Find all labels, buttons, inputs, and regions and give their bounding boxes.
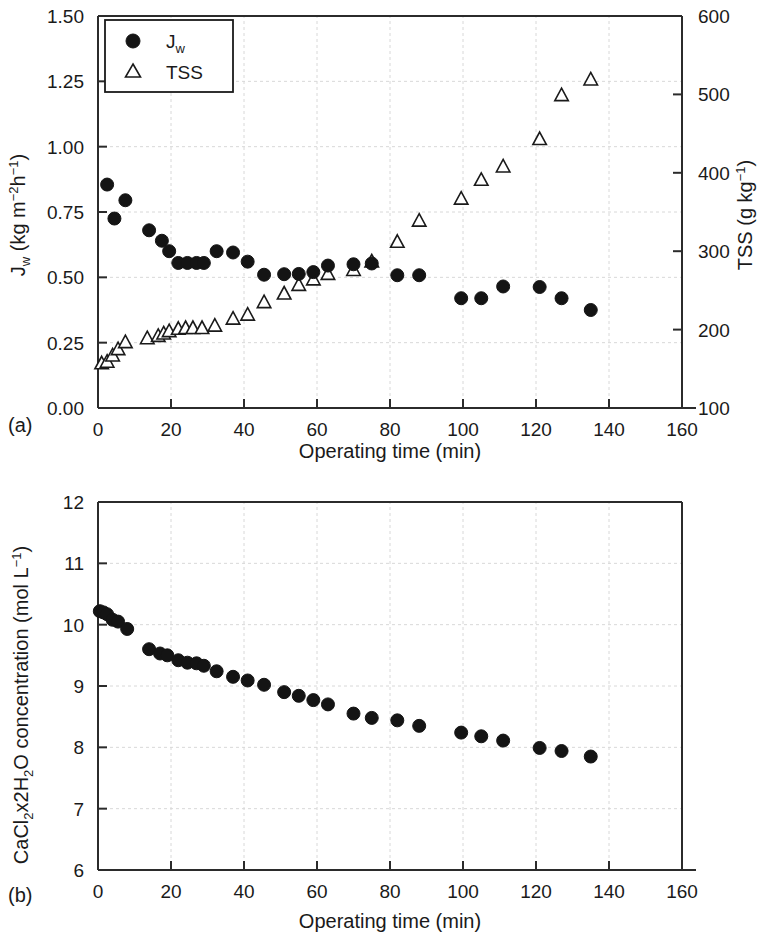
- tick-label-x: 20: [160, 419, 181, 440]
- tick-label-y-left: 1.25: [47, 71, 84, 92]
- panel-a-label: (a): [8, 414, 32, 436]
- panel-b-series-points: [93, 605, 597, 763]
- data-point-concentration: [555, 745, 568, 758]
- legend-label-jw-main: J: [166, 31, 176, 52]
- legend-label-jw-subscript: w: [175, 41, 186, 56]
- data-point-concentration: [227, 670, 240, 683]
- legend-label-tss: TSS: [166, 62, 203, 83]
- tick-label-y-left: 9: [73, 676, 84, 697]
- data-point-concentration: [210, 665, 223, 678]
- panel-a-plot: 0204060801001201401600.000.250.500.751.0…: [0, 0, 771, 470]
- tick-label-y-left: 0.00: [47, 398, 84, 419]
- data-point-jw: [101, 178, 114, 191]
- data-point-concentration: [475, 730, 488, 743]
- panel-a-y2-axis-title: TSS (g kg−1): [733, 160, 756, 270]
- data-point-tss: [241, 308, 255, 321]
- data-point-jw: [108, 212, 121, 225]
- data-point-concentration: [307, 694, 320, 707]
- panel-b-plot: 0204060801001201401606789101112 CaCl2x2H…: [0, 470, 771, 940]
- data-point-tss: [496, 159, 510, 172]
- data-point-tss: [391, 235, 405, 248]
- data-point-concentration: [197, 659, 210, 672]
- tick-label-x: 140: [593, 419, 625, 440]
- figure-container: 0204060801001201401600.000.250.500.751.0…: [0, 0, 771, 940]
- data-point-jw: [197, 256, 210, 269]
- data-point-jw: [227, 246, 240, 259]
- tick-label-x: 160: [666, 881, 698, 902]
- data-point-jw: [497, 280, 510, 293]
- tick-label-x: 140: [593, 881, 625, 902]
- tick-label-x: 40: [233, 881, 254, 902]
- data-point-concentration: [497, 734, 510, 747]
- panel-a-series-jw-points: [101, 178, 598, 316]
- data-point-tss: [208, 319, 222, 332]
- data-point-jw: [391, 269, 404, 282]
- data-point-concentration: [391, 714, 404, 727]
- panel-b-gridlines: [98, 502, 682, 870]
- tick-label-y-right: 400: [698, 163, 730, 184]
- tick-label-y-left: 1.00: [47, 137, 84, 158]
- tick-label-y-right: 600: [698, 6, 730, 27]
- data-point-jw: [258, 268, 271, 281]
- tick-label-x: 160: [666, 419, 698, 440]
- data-point-tss: [584, 72, 598, 85]
- panel-b-label: (b): [8, 884, 32, 906]
- tick-label-y-left: 0.75: [47, 202, 84, 223]
- data-point-concentration: [278, 686, 291, 699]
- data-point-jw: [413, 269, 426, 282]
- panel-b-x-axis-title: Operating time (min): [299, 910, 481, 932]
- panel-a: 0204060801001201401600.000.250.500.751.0…: [0, 0, 771, 470]
- data-point-tss: [257, 295, 271, 308]
- tick-label-y-right: 100: [698, 398, 730, 419]
- tick-label-y-left: 1.50: [47, 6, 84, 27]
- tick-label-y-left: 8: [73, 737, 84, 758]
- tick-label-y-right: 500: [698, 84, 730, 105]
- data-point-tss: [277, 287, 291, 300]
- tick-label-y-left: 11: [64, 553, 84, 574]
- data-point-jw: [210, 245, 223, 258]
- data-point-jw: [533, 281, 546, 294]
- data-point-concentration: [347, 707, 360, 720]
- data-point-jw: [241, 255, 254, 268]
- tick-label-x: 80: [379, 419, 400, 440]
- data-point-concentration: [121, 622, 134, 635]
- data-point-concentration: [455, 726, 468, 739]
- panel-a-series-tss-points: [95, 72, 598, 368]
- tick-label-x: 40: [233, 419, 254, 440]
- tick-label-x: 100: [447, 419, 479, 440]
- data-point-jw: [584, 304, 597, 317]
- data-point-jw: [555, 292, 568, 305]
- tick-label-x: 20: [160, 881, 181, 902]
- svg-text:Jw (kg m−2h−1): Jw (kg m−2h−1): [6, 154, 33, 276]
- tick-label-x: 60: [306, 419, 327, 440]
- tick-label-y-left: 6: [73, 860, 84, 881]
- tick-label-x: 0: [93, 881, 104, 902]
- data-point-concentration: [292, 689, 305, 702]
- tick-label-x: 100: [447, 881, 479, 902]
- tick-label-y-right: 200: [698, 320, 730, 341]
- data-point-jw: [119, 194, 132, 207]
- tick-label-x: 120: [520, 881, 552, 902]
- tick-label-y-left: 0.25: [47, 333, 84, 354]
- data-point-concentration: [533, 741, 546, 754]
- data-point-concentration: [241, 674, 254, 687]
- data-point-tss: [533, 132, 547, 145]
- panel-b: 0204060801001201401606789101112 CaCl2x2H…: [0, 470, 771, 940]
- data-point-jw: [163, 245, 176, 258]
- tick-label-x: 60: [306, 881, 327, 902]
- data-point-tss: [412, 214, 426, 227]
- data-point-tss: [475, 173, 489, 186]
- tick-label-y-left: 10: [63, 615, 84, 636]
- data-point-jw: [475, 292, 488, 305]
- data-point-tss: [555, 88, 569, 101]
- data-point-jw: [365, 257, 378, 270]
- data-point-jw: [321, 259, 334, 272]
- tick-label-x: 0: [93, 419, 104, 440]
- data-point-jw: [292, 267, 305, 280]
- panel-a-x-axis-title: Operating time (min): [299, 440, 481, 462]
- panel-b-tick-labels: 0204060801001201401606789101112: [63, 492, 698, 902]
- tick-label-y-left: 0.50: [47, 267, 84, 288]
- data-point-tss: [226, 312, 240, 325]
- svg-text:TSS (g kg−1): TSS (g kg−1): [733, 160, 756, 270]
- data-point-concentration: [321, 698, 334, 711]
